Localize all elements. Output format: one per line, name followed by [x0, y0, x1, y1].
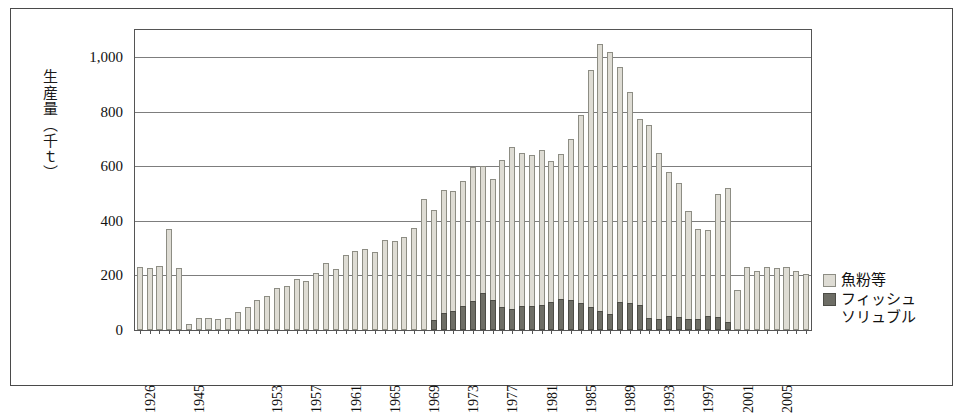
bar-segment-fishsoluble[interactable]: [666, 316, 672, 330]
bar-group[interactable]: [313, 30, 319, 330]
bar-segment-fishsoluble[interactable]: [695, 319, 701, 330]
bar-segment-fishmeal[interactable]: [715, 194, 721, 330]
bar-segment-fishmeal[interactable]: [529, 155, 535, 330]
bar-group[interactable]: [196, 30, 202, 330]
bar-group[interactable]: [754, 30, 760, 330]
bar-segment-fishsoluble[interactable]: [450, 311, 456, 330]
bar-segment-fishmeal[interactable]: [156, 266, 162, 330]
bar-segment-fishmeal[interactable]: [656, 153, 662, 330]
bar-segment-fishmeal[interactable]: [676, 183, 682, 330]
bar-segment-fishmeal[interactable]: [215, 319, 221, 330]
bar-segment-fishmeal[interactable]: [744, 267, 750, 330]
bar-group[interactable]: [372, 30, 378, 330]
bar-group[interactable]: [519, 30, 525, 330]
bar-segment-fishmeal[interactable]: [637, 119, 643, 330]
bar-segment-fishmeal[interactable]: [441, 190, 447, 330]
bar-segment-fishmeal[interactable]: [666, 172, 672, 330]
bar-segment-fishmeal[interactable]: [264, 296, 270, 330]
bar-group[interactable]: [499, 30, 505, 330]
bar-segment-fishmeal[interactable]: [323, 263, 329, 330]
bar-group[interactable]: [470, 30, 476, 330]
bar-segment-fishmeal[interactable]: [734, 290, 740, 330]
bar-segment-fishmeal[interactable]: [284, 286, 290, 330]
bar-group[interactable]: [450, 30, 456, 330]
bar-segment-fishmeal[interactable]: [205, 318, 211, 330]
bar-segment-fishsoluble[interactable]: [490, 300, 496, 330]
bar-group[interactable]: [166, 30, 172, 330]
bar-segment-fishmeal[interactable]: [783, 267, 789, 330]
bar-segment-fishsoluble[interactable]: [705, 316, 711, 330]
bar-segment-fishmeal[interactable]: [499, 160, 505, 330]
bar-group[interactable]: [803, 30, 809, 330]
bar-group[interactable]: [637, 30, 643, 330]
bar-group[interactable]: [205, 30, 211, 330]
bar-segment-fishsoluble[interactable]: [441, 313, 447, 330]
bar-segment-fishmeal[interactable]: [137, 267, 143, 330]
bar-segment-fishmeal[interactable]: [617, 67, 623, 330]
bar-segment-fishsoluble[interactable]: [480, 293, 486, 330]
bar-group[interactable]: [254, 30, 260, 330]
bar-group[interactable]: [264, 30, 270, 330]
bar-group[interactable]: [578, 30, 584, 330]
bar-segment-fishsoluble[interactable]: [529, 306, 535, 330]
bar-group[interactable]: [460, 30, 466, 330]
bar-segment-fishmeal[interactable]: [392, 241, 398, 330]
bar-segment-fishsoluble[interactable]: [509, 309, 515, 330]
bar-segment-fishsoluble[interactable]: [539, 305, 545, 330]
bar-group[interactable]: [215, 30, 221, 330]
bar-segment-fishsoluble[interactable]: [685, 319, 691, 330]
bar-segment-fishsoluble[interactable]: [578, 303, 584, 330]
bar-segment-fishmeal[interactable]: [450, 191, 456, 330]
bar-segment-fishsoluble[interactable]: [656, 319, 662, 330]
bar-segment-fishmeal[interactable]: [607, 52, 613, 330]
bar-segment-fishmeal[interactable]: [578, 115, 584, 330]
bar-group[interactable]: [401, 30, 407, 330]
bar-group[interactable]: [421, 30, 427, 330]
bar-group[interactable]: [303, 30, 309, 330]
bar-segment-fishmeal[interactable]: [333, 269, 339, 330]
bar-group[interactable]: [744, 30, 750, 330]
bar-group[interactable]: [186, 30, 192, 330]
bar-segment-fishmeal[interactable]: [362, 249, 368, 330]
bar-group[interactable]: [147, 30, 153, 330]
bar-group[interactable]: [137, 30, 143, 330]
bar-segment-fishmeal[interactable]: [166, 229, 172, 330]
bar-group[interactable]: [607, 30, 613, 330]
bar-group[interactable]: [490, 30, 496, 330]
bar-group[interactable]: [323, 30, 329, 330]
bar-segment-fishsoluble[interactable]: [646, 318, 652, 330]
bar-segment-fishmeal[interactable]: [597, 44, 603, 330]
bar-group[interactable]: [352, 30, 358, 330]
bar-group[interactable]: [715, 30, 721, 330]
bar-group[interactable]: [343, 30, 349, 330]
bar-group[interactable]: [431, 30, 437, 330]
bar-group[interactable]: [705, 30, 711, 330]
bar-segment-fishmeal[interactable]: [646, 125, 652, 330]
bar-segment-fishmeal[interactable]: [764, 267, 770, 330]
bar-segment-fishmeal[interactable]: [352, 251, 358, 330]
bar-segment-fishmeal[interactable]: [519, 153, 525, 330]
bar-segment-fishmeal[interactable]: [382, 240, 388, 330]
bar-group[interactable]: [695, 30, 701, 330]
bar-group[interactable]: [627, 30, 633, 330]
bar-segment-fishsoluble[interactable]: [460, 306, 466, 330]
bar-segment-fishsoluble[interactable]: [627, 303, 633, 330]
bar-group[interactable]: [588, 30, 594, 330]
bar-segment-fishsoluble[interactable]: [519, 306, 525, 330]
bar-segment-fishsoluble[interactable]: [607, 314, 613, 330]
bar-segment-fishmeal[interactable]: [196, 318, 202, 330]
bar-segment-fishmeal[interactable]: [793, 271, 799, 330]
bar-segment-fishsoluble[interactable]: [558, 299, 564, 330]
bar-segment-fishmeal[interactable]: [401, 237, 407, 330]
bar-segment-fishmeal[interactable]: [176, 268, 182, 330]
bar-group[interactable]: [156, 30, 162, 330]
bar-segment-fishmeal[interactable]: [754, 271, 760, 330]
bar-group[interactable]: [294, 30, 300, 330]
bar-group[interactable]: [764, 30, 770, 330]
bar-segment-fishmeal[interactable]: [254, 300, 260, 330]
bar-group[interactable]: [235, 30, 241, 330]
bar-segment-fishmeal[interactable]: [372, 252, 378, 330]
bar-group[interactable]: [568, 30, 574, 330]
bar-segment-fishsoluble[interactable]: [568, 300, 574, 330]
bar-segment-fishmeal[interactable]: [245, 307, 251, 330]
